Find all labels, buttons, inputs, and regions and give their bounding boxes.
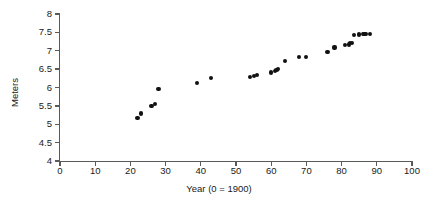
- x-tick-label: 80: [322, 166, 362, 176]
- y-tick: [55, 124, 59, 125]
- x-tick-label: 30: [146, 166, 186, 176]
- x-tick-label: 10: [75, 166, 115, 176]
- y-tick-label: 7.5: [18, 28, 52, 38]
- x-tick-label: 0: [40, 166, 80, 176]
- y-tick: [55, 13, 59, 14]
- y-tick-label: 4.5: [18, 138, 52, 148]
- y-tick-label: 6: [18, 83, 52, 93]
- data-point: [255, 73, 259, 77]
- y-tick-label: 8: [18, 9, 52, 19]
- data-point: [297, 55, 301, 59]
- data-point: [283, 59, 287, 63]
- y-tick-label: 7: [18, 46, 52, 56]
- y-tick-label: 6.5: [18, 64, 52, 74]
- data-point: [352, 33, 356, 37]
- x-tick-label: 70: [286, 166, 326, 176]
- scatter-plot-figure: 44.555.566.577.58 0102030405060708090100…: [0, 0, 438, 203]
- data-point: [350, 41, 354, 45]
- data-point: [368, 32, 372, 36]
- x-tick-label: 50: [216, 166, 256, 176]
- plot-area: [60, 14, 412, 161]
- data-point: [276, 67, 280, 71]
- y-tick-label: 5: [18, 120, 52, 130]
- x-tick-label: 40: [181, 166, 221, 176]
- data-point: [139, 111, 143, 115]
- y-tick: [55, 32, 59, 33]
- data-point: [156, 87, 160, 91]
- data-point: [153, 102, 157, 106]
- x-tick-label: 100: [392, 166, 432, 176]
- x-axis-title: Year (0 = 1900): [0, 183, 438, 194]
- data-point: [304, 55, 308, 59]
- data-point: [135, 116, 139, 120]
- data-point: [332, 45, 336, 49]
- data-point: [209, 76, 213, 80]
- data-point: [325, 50, 329, 54]
- y-tick: [55, 68, 59, 69]
- x-tick-label: 20: [110, 166, 150, 176]
- y-tick: [55, 142, 59, 143]
- data-point: [195, 81, 199, 85]
- y-tick: [55, 87, 59, 88]
- y-axis-title: Meters: [9, 53, 20, 133]
- y-tick-label: 4: [18, 156, 52, 166]
- x-tick-label: 60: [251, 166, 291, 176]
- y-tick-label: 5.5: [18, 101, 52, 111]
- y-tick: [55, 50, 59, 51]
- x-tick-label: 90: [357, 166, 397, 176]
- y-tick: [55, 105, 59, 106]
